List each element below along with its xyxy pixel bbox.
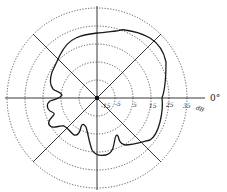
tick-label: 25 (165, 101, 174, 108)
tick-label: 35 (183, 102, 191, 109)
polar-chart: -15 -5 5 15 25 35 dB 0° (0, 0, 227, 192)
zero-degree-label: 0° (210, 93, 220, 103)
tick-label: 15 (149, 102, 157, 109)
tick-label: -5 (115, 100, 121, 107)
grid-spokes (5, 6, 205, 190)
origin-point (95, 96, 99, 100)
unit-label: dB (195, 104, 206, 114)
radial-tick-labels: -15 -5 5 15 25 35 dB (101, 100, 206, 113)
tick-label: -15 (101, 102, 111, 109)
pattern-curve (47, 30, 166, 156)
tick-label: 5 (133, 101, 137, 108)
